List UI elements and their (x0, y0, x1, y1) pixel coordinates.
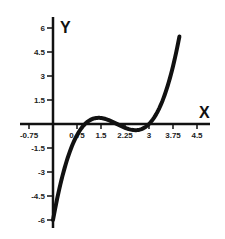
y-tick-label: -6 (38, 216, 46, 225)
y-tick-label: 4.5 (34, 48, 46, 57)
x-ticks: -0.750.751.52.2533.754.5 (20, 124, 203, 140)
y-tick-label: 1.5 (34, 96, 46, 105)
x-tick-label: -0.75 (20, 131, 39, 140)
cubic-curve (53, 37, 179, 220)
y-tick-label: 3 (41, 72, 46, 81)
x-tick-label: 3 (147, 131, 152, 140)
y-tick-label: -4.5 (31, 192, 45, 201)
cubic-function-plot: -0.750.751.52.2533.754.5 64.531.5-1.5-3-… (0, 0, 225, 239)
x-axis-title: X (199, 104, 210, 121)
x-tick-label: 4.5 (191, 131, 203, 140)
x-tick-label: 2.25 (117, 131, 133, 140)
x-tick-label: 1.5 (95, 131, 107, 140)
y-tick-label: -3 (38, 168, 46, 177)
y-tick-label: 6 (41, 24, 46, 33)
x-tick-label: 3.75 (165, 131, 181, 140)
y-tick-label: -1.5 (31, 144, 45, 153)
y-axis-title: Y (60, 19, 71, 36)
